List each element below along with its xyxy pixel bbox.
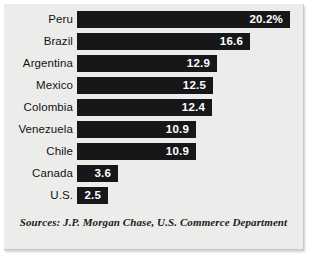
bar-value-label: 12.4 — [182, 99, 205, 116]
bar-row: U.S. 2.5 — [4, 187, 304, 209]
bar-track: 16.6 — [77, 33, 304, 50]
bar-track: 20.2% — [77, 11, 304, 28]
bar-fill: 12.4 — [77, 99, 212, 116]
bar-track: 12.5 — [77, 77, 304, 94]
bar-row: Argentina 12.9 — [4, 55, 304, 77]
bar-row: Colombia 12.4 — [4, 99, 304, 121]
bar-row: Canada 3.6 — [4, 165, 304, 187]
source-note: Sources: J.P. Morgan Chase, U.S. Commerc… — [4, 216, 303, 228]
bar-value-label: 12.9 — [187, 55, 210, 72]
bar-track: 12.4 — [77, 99, 304, 116]
bar-value-label: 3.6 — [94, 165, 111, 182]
bar-category-label: Chile — [4, 143, 73, 160]
bar-category-label: Brazil — [4, 33, 73, 50]
bar-value-label: 10.9 — [166, 143, 189, 160]
bar-category-label: U.S. — [4, 187, 73, 204]
bar-track: 2.5 — [77, 187, 304, 204]
bar-value-label: 20.2% — [249, 11, 283, 28]
bar-track: 12.9 — [77, 55, 304, 72]
bar-value-label: 10.9 — [166, 121, 189, 138]
bar-row: Chile 10.9 — [4, 143, 304, 165]
bar-fill: 12.9 — [77, 55, 217, 72]
bar-category-label: Canada — [4, 165, 73, 182]
bar-track: 3.6 — [77, 165, 304, 182]
bar-category-label: Peru — [4, 11, 73, 28]
bar-row: Brazil 16.6 — [4, 33, 304, 55]
bar-fill: 10.9 — [77, 121, 196, 138]
bar-category-label: Mexico — [4, 77, 73, 94]
bar-value-label: 16.6 — [220, 33, 243, 50]
bar-row: Peru 20.2% — [4, 11, 304, 33]
bar-fill: 12.5 — [77, 77, 213, 94]
bar-chart-figure: Peru 20.2% Brazil 16.6 Argentina 12.9 — [4, 4, 304, 250]
bar-value-label: 2.5 — [84, 187, 101, 204]
bar-value-label: 12.5 — [183, 77, 206, 94]
bar-chart-plot-area: Peru 20.2% Brazil 16.6 Argentina 12.9 — [4, 11, 304, 209]
bar-fill: 2.5 — [77, 187, 108, 204]
bar-row: Mexico 12.5 — [4, 77, 304, 99]
bar-track: 10.9 — [77, 121, 304, 138]
bar-track: 10.9 — [77, 143, 304, 160]
bar-category-label: Argentina — [4, 55, 73, 72]
bar-category-label: Colombia — [4, 99, 73, 116]
bar-fill: 10.9 — [77, 143, 196, 160]
bar-fill: 20.2% — [77, 11, 290, 28]
bar-fill: 3.6 — [77, 165, 118, 182]
bar-row: Venezuela 10.9 — [4, 121, 304, 143]
bar-fill: 16.6 — [77, 33, 250, 50]
bar-category-label: Venezuela — [4, 121, 73, 138]
